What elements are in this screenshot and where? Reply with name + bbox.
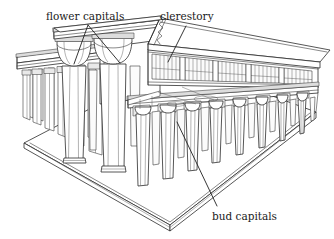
clerestory-label: clerestory bbox=[160, 10, 214, 22]
flower-capitals-label: flower capitals bbox=[46, 10, 124, 22]
bud-capitals-label: bud capitals bbox=[212, 210, 277, 222]
hypostyle-hall-drawing: flower capitals clerestory bud capitals bbox=[0, 0, 334, 239]
architectural-illustration: flower capitals clerestory bud capitals bbox=[0, 0, 334, 239]
